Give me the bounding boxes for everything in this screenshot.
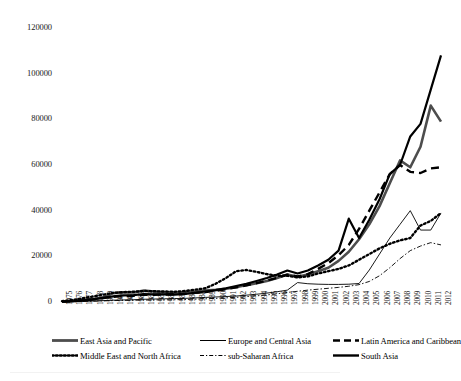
legend-item-middle-east-and-north-africa[interactable]: Middle East and North Africa bbox=[52, 349, 181, 362]
legend-swatch-icon bbox=[333, 350, 359, 361]
legend-swatch-icon bbox=[52, 350, 78, 361]
legend-row: Middle East and North Africasub-Saharan … bbox=[52, 349, 444, 362]
legend-swatch-icon bbox=[333, 335, 359, 346]
legend-swatch-icon bbox=[200, 335, 226, 346]
legend-item-east-asia-and-pacific[interactable]: East Asia and Pacific bbox=[52, 334, 152, 347]
legend-item-latin-america-and-caribbean[interactable]: Latin America and Caribbean bbox=[333, 334, 461, 347]
series-line-europe-and-central-asia bbox=[62, 211, 441, 302]
legend-label: Middle East and North Africa bbox=[80, 351, 181, 361]
legend-row: East Asia and PacificEurope and Central … bbox=[52, 334, 444, 347]
legend-label: Europe and Central Asia bbox=[228, 336, 311, 346]
legend-label: Latin America and Caribbean bbox=[361, 336, 461, 346]
legend-swatch-icon bbox=[52, 335, 78, 346]
bottom-rule bbox=[10, 372, 340, 373]
legend-item-europe-and-central-asia[interactable]: Europe and Central Asia bbox=[200, 334, 311, 347]
legend-item-south-asia[interactable]: South Asia bbox=[333, 349, 398, 362]
legend-label: South Asia bbox=[361, 351, 398, 361]
legend-item-sub-saharan-africa[interactable]: sub-Saharan Africa bbox=[200, 349, 293, 362]
chart-legend: East Asia and PacificEurope and Central … bbox=[52, 334, 444, 364]
legend-label: sub-Saharan Africa bbox=[228, 351, 293, 361]
legend-swatch-icon bbox=[200, 350, 226, 361]
series-line-south-asia bbox=[62, 55, 441, 301]
series-line-middle-east-and-north-africa bbox=[62, 213, 441, 301]
legend-label: East Asia and Pacific bbox=[80, 336, 152, 346]
